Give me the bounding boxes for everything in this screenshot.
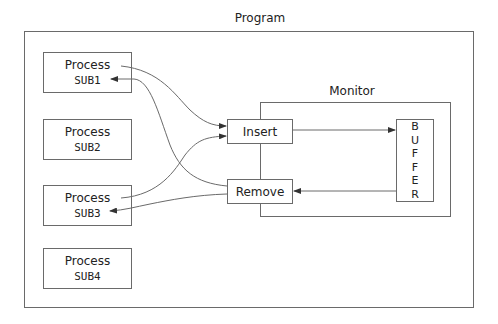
- process-label: Process: [65, 254, 111, 269]
- buffer-letter: R: [411, 188, 419, 202]
- process-sub2: Process SUB2: [43, 119, 132, 160]
- buffer-letter: E: [412, 174, 419, 188]
- process-name: SUB2: [74, 140, 101, 155]
- buffer-letter: B: [411, 120, 419, 134]
- buffer-letter: F: [412, 147, 418, 161]
- buffer-letter: F: [412, 161, 418, 175]
- buffer: B U F F E R: [396, 119, 434, 202]
- process-label: Process: [65, 58, 111, 73]
- process-sub1: Process SUB1: [43, 52, 132, 93]
- program-title: Program: [230, 11, 290, 25]
- process-label: Process: [65, 191, 111, 206]
- remove-label: Remove: [236, 185, 285, 199]
- process-sub4: Process SUB4: [43, 248, 132, 289]
- process-sub3: Process SUB3: [43, 185, 132, 226]
- process-name: SUB3: [74, 206, 101, 221]
- process-name: SUB4: [74, 269, 101, 284]
- remove-operation: Remove: [227, 179, 293, 204]
- process-label: Process: [65, 125, 111, 140]
- buffer-letter: U: [411, 134, 419, 148]
- insert-operation: Insert: [227, 119, 293, 144]
- insert-label: Insert: [243, 125, 277, 139]
- monitor-title: Monitor: [322, 84, 382, 98]
- process-name: SUB1: [74, 73, 101, 88]
